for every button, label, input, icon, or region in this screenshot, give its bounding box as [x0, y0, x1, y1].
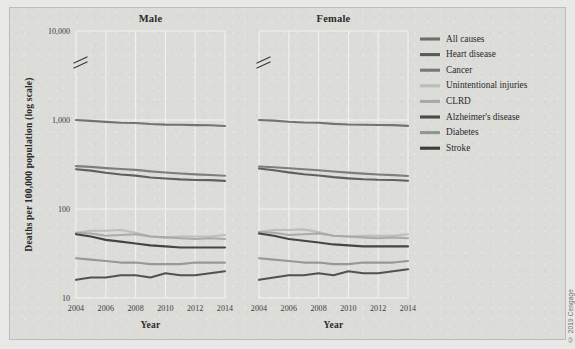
mortality-trend-chart: Male200420062008201020122014YearFemale20…: [10, 8, 567, 341]
legend-label-cancer[interactable]: Cancer: [446, 65, 473, 75]
legend-label-clrd[interactable]: CLRD: [446, 96, 471, 106]
y-tick-label: 1,000: [52, 116, 70, 125]
series-line-alzheimer-s-disease: [76, 271, 225, 280]
legend-label-heart-disease[interactable]: Heart disease: [446, 49, 496, 59]
x-tick-label: 2004: [251, 304, 267, 313]
panel-title-female: Female: [317, 13, 351, 24]
figure-container: Male200420062008201020122014YearFemale20…: [0, 0, 575, 349]
series-line-diabetes: [259, 258, 408, 264]
series-line-all-causes: [259, 120, 408, 126]
y-tick-label: 10,000: [48, 27, 70, 36]
x-tick-label: 2010: [340, 304, 356, 313]
x-tick-label: 2012: [187, 304, 203, 313]
x-tick-label: 2006: [98, 304, 114, 313]
x-axis-label: Year: [324, 320, 344, 330]
copyright-credit: © 2019 Cengage: [567, 289, 574, 343]
panel-title-male: Male: [139, 13, 163, 24]
legend-label-all-causes[interactable]: All causes: [446, 34, 485, 44]
legend-label-diabetes[interactable]: Diabetes: [446, 127, 479, 137]
x-tick-label: 2010: [157, 304, 173, 313]
x-tick-label: 2014: [400, 304, 416, 313]
legend-label-stroke[interactable]: Stroke: [446, 143, 470, 153]
x-tick-label: 2006: [281, 304, 297, 313]
figure-panel: Male200420062008201020122014YearFemale20…: [9, 7, 566, 340]
series-line-alzheimer-s-disease: [259, 269, 408, 280]
x-tick-label: 2008: [310, 304, 326, 313]
x-tick-label: 2012: [370, 304, 386, 313]
y-axis-label: Deaths per 100,000 population (log scale…: [24, 77, 35, 251]
y-tick-label: 10: [62, 294, 70, 303]
legend-label-unintentional-injuries[interactable]: Unintentional injuries: [446, 80, 528, 90]
y-tick-label: 100: [58, 205, 70, 214]
legend-label-alzheimer-s-disease[interactable]: Alzheimer's disease: [446, 112, 520, 122]
x-tick-label: 2004: [68, 304, 84, 313]
series-line-diabetes: [76, 258, 225, 264]
x-axis-label: Year: [141, 320, 161, 330]
x-tick-label: 2008: [127, 304, 143, 313]
x-tick-label: 2014: [217, 304, 233, 313]
series-line-all-causes: [76, 120, 225, 126]
